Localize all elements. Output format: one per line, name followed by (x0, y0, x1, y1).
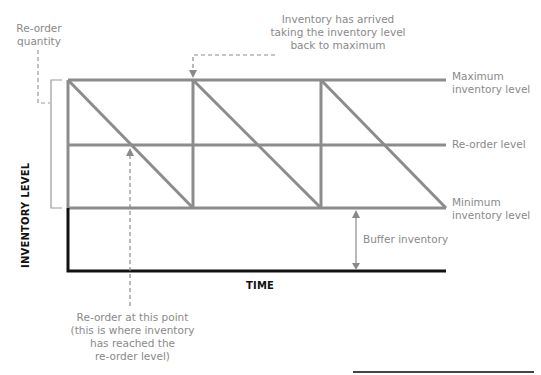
reorder-point-arrowhead-icon (126, 148, 134, 156)
arrival-arrowhead-icon (189, 70, 197, 78)
arrival-label: Inventory has arrived taking the invento… (268, 13, 408, 52)
reorder-quantity-line2: quantity (14, 35, 64, 48)
minimum-label-line2: inventory level (452, 209, 530, 222)
reorder-point-line3: has reached the (70, 337, 195, 350)
maximum-label-line2: inventory level (452, 83, 530, 96)
y-axis-label: INVENTORY LEVEL (20, 163, 31, 268)
arrival-line3: back to maximum (268, 39, 408, 52)
buffer-arrowhead-up-icon (352, 210, 360, 218)
arrival-pointer (193, 55, 275, 72)
reorder-point-line2: (this is where inventory (70, 324, 195, 337)
reorder-label-text: Re-order level (452, 138, 526, 151)
reorder-point-label: Re-order at this point (this is where in… (70, 311, 195, 363)
reorder-quantity-pointer (38, 50, 50, 103)
reorder-quantity-line1: Re-order (14, 22, 64, 35)
maximum-level-label: Maximum inventory level (452, 70, 530, 96)
reorder-quantity-bracket (51, 80, 62, 208)
maximum-label-line1: Maximum (452, 70, 530, 83)
arrival-line2: taking the inventory level (268, 26, 408, 39)
minimum-label-line1: Minimum (452, 196, 530, 209)
minimum-level-label: Minimum inventory level (452, 196, 530, 222)
buffer-inventory-label: Buffer inventory (363, 233, 448, 246)
reorder-quantity-label: Re-order quantity (14, 22, 64, 48)
x-axis-label: TIME (246, 280, 274, 291)
reorder-level-label: Re-order level (452, 138, 526, 151)
buffer-arrowhead-down-icon (352, 263, 360, 270)
reorder-point-line1: Re-order at this point (70, 311, 195, 324)
arrival-line1: Inventory has arrived (268, 13, 408, 26)
buffer-label-text: Buffer inventory (363, 233, 448, 246)
reorder-point-line4: re-order level) (70, 350, 195, 363)
